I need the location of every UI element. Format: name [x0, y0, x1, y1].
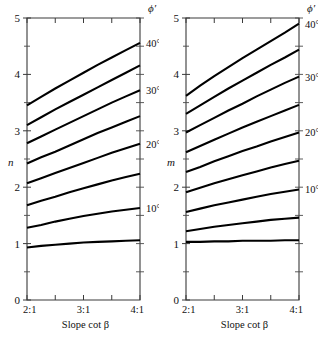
x-tick-label: 2:1 — [23, 304, 36, 315]
series-label-40deg: 40° — [305, 19, 318, 30]
x-axis-title: Slope cot β — [221, 319, 268, 330]
axes-group — [23, 18, 144, 300]
series-label-30deg: 30° — [146, 85, 159, 96]
y-tick-label: 3 — [15, 125, 21, 137]
chart-panel-m: 012345m2:13:14:1Slope cot βϕ′40°30°20°10… — [159, 0, 318, 340]
series-label-20deg: 20° — [305, 127, 318, 138]
chart-svg-m: 012345m2:13:14:1Slope cot βϕ′40°30°20°10… — [159, 0, 318, 340]
series-label-10deg: 10° — [305, 184, 318, 195]
y-tick-label: 2 — [174, 181, 180, 193]
y-axis-title: m — [167, 156, 175, 168]
curve-phi-25deg — [186, 105, 299, 152]
y-axis-title: n — [8, 156, 14, 168]
y-tick-label: 4 — [174, 68, 180, 80]
chart-svg-n: 012345n2:13:14:1Slope cot βϕ′40°30°20°10… — [0, 0, 159, 340]
curve-phi-20deg — [186, 132, 299, 171]
x-tick-label: 4:1 — [131, 304, 144, 315]
curve-phi-0deg — [186, 240, 299, 242]
y-tick-label: 5 — [174, 12, 180, 24]
x-axis-title: Slope cot β — [62, 319, 109, 330]
curve-phi-15deg — [27, 174, 140, 206]
chart-panel-n: 012345n2:13:14:1Slope cot βϕ′40°30°20°10… — [0, 0, 159, 340]
curve-phi-10deg — [27, 208, 140, 228]
y-tick-label: 1 — [15, 238, 21, 250]
legend-title-phi-prime: ϕ′ — [148, 2, 157, 14]
series-label-40deg: 40° — [146, 38, 159, 49]
x-tick-label: 2:1 — [182, 304, 195, 315]
series-label-30deg: 30° — [305, 72, 318, 83]
x-tick-label: 3:1 — [236, 304, 249, 315]
y-tick-label: 3 — [174, 125, 180, 137]
series-label-20deg: 20° — [146, 139, 159, 150]
curves-group — [27, 43, 140, 248]
curves-group — [186, 24, 299, 242]
curve-phi-5deg — [186, 218, 299, 232]
x-tick-label: 3:1 — [77, 304, 90, 315]
y-tick-label: 5 — [15, 12, 21, 24]
axes-group — [182, 18, 303, 300]
curve-phi-5deg — [27, 240, 140, 247]
figure-canvas: 012345n2:13:14:1Slope cot βϕ′40°30°20°10… — [0, 0, 318, 340]
legend-title-phi-prime: ϕ′ — [307, 2, 316, 14]
plot-frame — [27, 18, 140, 300]
curve-phi-10deg — [186, 189, 299, 212]
series-label-10deg: 10° — [146, 203, 159, 214]
x-tick-label: 4:1 — [290, 304, 303, 315]
y-tick-label: 0 — [174, 294, 180, 306]
curve-phi-25deg — [27, 116, 140, 163]
y-tick-label: 1 — [174, 238, 180, 250]
y-tick-label: 4 — [15, 68, 21, 80]
y-tick-label: 0 — [15, 294, 21, 306]
y-tick-label: 2 — [15, 181, 21, 193]
plot-frame — [186, 18, 299, 300]
